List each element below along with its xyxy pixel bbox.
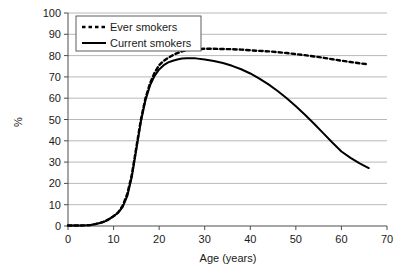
y-tick-label: 40 xyxy=(49,135,61,147)
y-tick-label: 0 xyxy=(55,220,61,232)
x-axis-title: Age (years) xyxy=(200,252,257,264)
x-tick-label: 0 xyxy=(65,233,71,245)
chart-figure: 0102030405060708090100 010203040506070 E… xyxy=(0,0,418,273)
x-tick-label: 10 xyxy=(107,233,119,245)
legend-label: Current smokers xyxy=(110,37,192,49)
y-tick-label: 60 xyxy=(49,92,61,104)
y-tick-label: 50 xyxy=(49,114,61,126)
y-tick-label: 90 xyxy=(49,28,61,40)
legend-label: Ever smokers xyxy=(110,21,178,33)
x-tick-label: 30 xyxy=(199,233,211,245)
y-tick-label: 70 xyxy=(49,71,61,83)
x-tick-label: 50 xyxy=(290,233,302,245)
x-tick-label: 60 xyxy=(335,233,347,245)
chart-legend: Ever smokersCurrent smokers xyxy=(76,16,201,51)
y-tick-label: 100 xyxy=(43,7,61,19)
line-chart: 0102030405060708090100 010203040506070 E… xyxy=(0,0,418,273)
x-tick-label: 70 xyxy=(381,233,393,245)
y-tick-label: 10 xyxy=(49,199,61,211)
y-tick-label: 80 xyxy=(49,50,61,62)
y-axis-title: % xyxy=(12,117,24,127)
x-tick-label: 20 xyxy=(153,233,165,245)
y-tick-label: 30 xyxy=(49,156,61,168)
x-tick-label: 40 xyxy=(244,233,256,245)
y-tick-label: 20 xyxy=(49,177,61,189)
